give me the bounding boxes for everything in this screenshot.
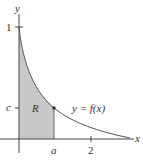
region-r-shading bbox=[19, 27, 54, 139]
point-a-c bbox=[53, 107, 56, 110]
region-diagram: y 1 c R y = f(x) a 2 x bbox=[0, 0, 143, 161]
y-axis-label: y bbox=[14, 2, 20, 14]
x-tick-two-label: 2 bbox=[88, 144, 94, 156]
curve-label: y = f(x) bbox=[71, 102, 105, 115]
x-tick-a-label: a bbox=[51, 144, 57, 156]
region-label: R bbox=[31, 102, 39, 114]
y-tick-c-label: c bbox=[6, 101, 11, 113]
x-axis-label: x bbox=[134, 132, 140, 144]
y-tick-one-label: 1 bbox=[6, 21, 12, 33]
